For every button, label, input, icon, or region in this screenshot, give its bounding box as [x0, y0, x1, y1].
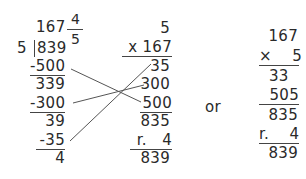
divisor: 5 — [17, 40, 27, 57]
subtract-step-2: -300 — [30, 95, 65, 113]
subtract-step-1: -500 — [30, 58, 65, 76]
division-bracket — [34, 40, 35, 57]
check-partial-1: 35 — [120, 58, 170, 75]
check-remainder: r. 4 — [130, 132, 172, 150]
subtract-step-3: -35 — [36, 132, 65, 150]
alt-partial-2: 505 — [259, 87, 299, 105]
alt-top: 167 — [250, 28, 298, 45]
quotient: 167 — [36, 19, 66, 36]
check-sum: 835 — [120, 113, 170, 130]
check-total: 839 — [120, 150, 170, 167]
fraction-denominator: 5 — [71, 31, 80, 48]
check-partial-2: 300 — [120, 76, 170, 93]
fraction-bar — [67, 29, 83, 30]
remainder-step-2: 39 — [30, 113, 65, 130]
final-remainder: 4 — [30, 150, 65, 167]
alt-partial-1: 33 — [269, 68, 289, 85]
check-multiplier: x 167 — [122, 39, 172, 57]
alt-remainder: r. 4 — [259, 126, 299, 144]
alt-total: 839 — [250, 145, 298, 162]
alt-multiplier: × 5 — [259, 48, 299, 66]
remainder-step-1: 339 — [30, 76, 65, 93]
alt-sum: 835 — [250, 107, 298, 124]
or-label: or — [205, 99, 221, 116]
fraction-numerator: 4 — [71, 11, 80, 28]
dividend: 839 — [37, 40, 67, 57]
check-partial-3: 500 — [140, 95, 172, 113]
check-top: 5 — [120, 20, 170, 37]
